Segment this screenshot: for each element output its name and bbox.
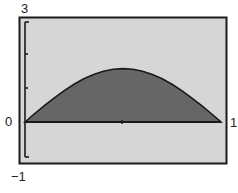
- y-min-label: −1: [11, 170, 26, 183]
- y-zero-label: 0: [5, 115, 12, 128]
- chart-canvas: [0, 0, 238, 193]
- x-max-label: 1: [230, 116, 237, 129]
- y-max-label: 3: [21, 2, 28, 15]
